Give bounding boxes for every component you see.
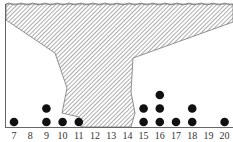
x-tick-label: 12 [90, 130, 100, 141]
x-tick-label: 18 [187, 130, 197, 141]
x-axis-tick-labels: 7891011121314151617181920 [12, 130, 230, 141]
x-tick-label: 14 [122, 130, 132, 141]
x-tick-label: 11 [74, 130, 84, 141]
x-tick-label: 8 [28, 130, 33, 141]
data-dot [172, 118, 181, 127]
data-dot [156, 91, 165, 100]
data-dot [139, 104, 148, 113]
x-tick-label: 13 [106, 130, 116, 141]
data-dot [75, 118, 84, 127]
x-tick-label: 20 [220, 130, 230, 141]
data-dot [58, 118, 67, 127]
data-dot [220, 118, 229, 127]
x-tick-label: 10 [58, 130, 68, 141]
dot-plot-chart: 7891011121314151617181920 [0, 0, 233, 142]
x-tick-label: 17 [171, 130, 181, 141]
x-tick-label: 15 [139, 130, 149, 141]
data-dot [156, 104, 165, 113]
x-tick-label: 7 [12, 130, 17, 141]
x-tick-label: 9 [44, 130, 49, 141]
x-tick-label: 16 [155, 130, 165, 141]
data-dot [188, 104, 197, 113]
data-dot [42, 104, 51, 113]
hatched-cover-region [6, 3, 233, 127]
x-tick-label: 19 [203, 130, 213, 141]
data-dot [156, 118, 165, 127]
data-dot [188, 118, 197, 127]
data-dot [42, 118, 51, 127]
data-dot [10, 118, 19, 127]
data-dot [139, 118, 148, 127]
